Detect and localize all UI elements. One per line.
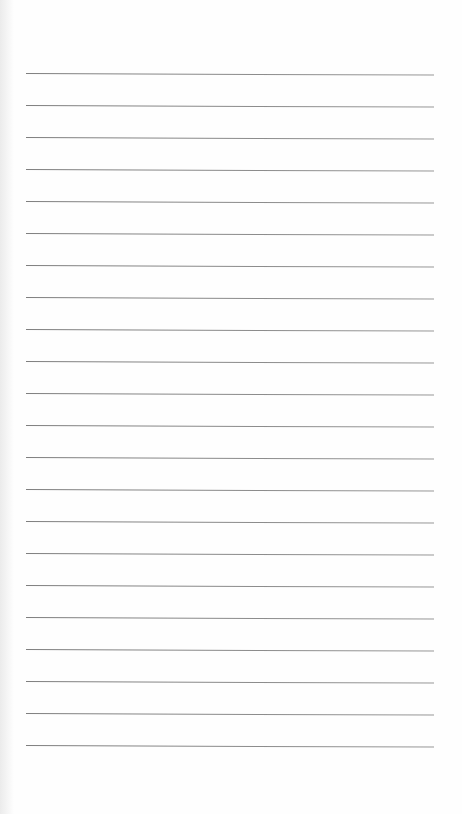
ruled-line <box>26 457 434 460</box>
ruled-line <box>26 265 434 268</box>
left-edge-shadow <box>0 0 14 814</box>
ruled-line <box>26 393 434 396</box>
lined-paper-sheet <box>0 0 462 814</box>
ruled-line <box>26 297 434 300</box>
ruled-line <box>26 585 434 588</box>
ruled-line <box>26 233 434 236</box>
ruled-line <box>26 681 434 684</box>
ruled-line <box>26 713 434 716</box>
ruled-line <box>26 329 434 332</box>
ruled-line <box>26 553 434 556</box>
ruled-line <box>26 489 434 492</box>
ruled-line <box>26 137 434 140</box>
ruled-line <box>26 169 434 172</box>
ruled-line <box>26 745 434 748</box>
ruled-line <box>26 425 434 428</box>
ruled-line <box>26 649 434 652</box>
ruled-line <box>26 617 434 620</box>
ruled-line <box>26 521 434 524</box>
ruled-line <box>26 73 434 76</box>
ruled-line <box>26 361 434 364</box>
ruled-line <box>26 201 434 204</box>
ruled-line <box>26 105 434 108</box>
